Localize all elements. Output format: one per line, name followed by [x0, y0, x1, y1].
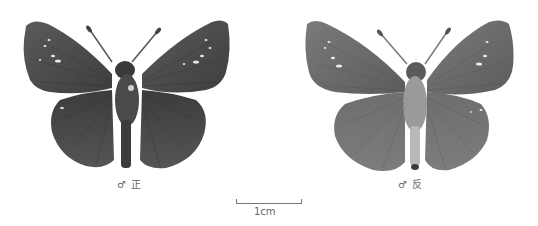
scale-bar-right-tick [301, 199, 302, 204]
specimen-dorsal-view [0, 0, 269, 180]
scale-bar [236, 196, 302, 204]
scale-bar-label: 1cm [254, 206, 276, 217]
specimen-ventral-view [269, 0, 538, 180]
caption-male-ventral: ♂ 反 [398, 176, 423, 191]
butterfly-ventral-image [269, 0, 538, 180]
scale-bar-line [236, 203, 302, 204]
caption-male-dorsal: ♂ 正 [117, 176, 142, 191]
butterfly-dorsal-image [0, 0, 269, 180]
